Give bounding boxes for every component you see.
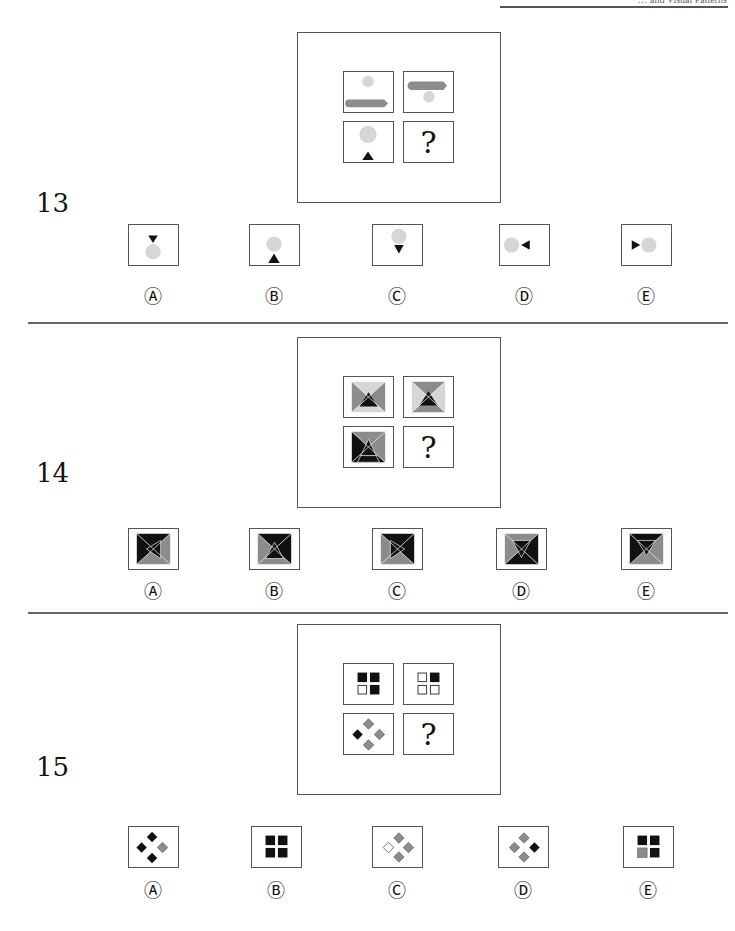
q13-cell-2 (403, 71, 454, 113)
question-13-number: 13 (36, 188, 69, 218)
four-squares-icon (404, 664, 453, 704)
running-header: … and Visual Patterns (638, 0, 727, 5)
question-mark: ? (404, 122, 453, 162)
q15-option-a[interactable] (128, 826, 179, 868)
quadrant-pyramid-icon (344, 377, 393, 417)
q15-option-c-label[interactable]: Ⓒ (385, 876, 409, 902)
four-diamonds-icon (129, 827, 178, 867)
header-rule (500, 6, 728, 8)
section-divider (28, 612, 728, 614)
q15-cell-2 (403, 663, 454, 705)
four-squares-icon (344, 664, 393, 704)
quadrant-pyramid-icon (344, 427, 393, 467)
q14-option-d-label[interactable]: Ⓓ (509, 577, 533, 603)
q14-option-a[interactable] (128, 528, 179, 570)
four-diamonds-icon (373, 827, 422, 867)
q14-cell-2 (403, 376, 454, 418)
q15-cell-question: ? (403, 713, 454, 755)
circle-and-arrow-bar-icon (344, 72, 393, 112)
right-triangle-pyramid-icon (373, 529, 422, 569)
q13-option-e[interactable] (621, 224, 672, 266)
section-divider (28, 322, 728, 324)
down-triangle-pyramid-icon (622, 529, 671, 569)
four-squares-icon (252, 827, 301, 867)
q13-option-c[interactable] (372, 224, 423, 266)
circle-over-down-triangle-icon (373, 225, 422, 265)
question-15-matrix-frame: ? (297, 624, 501, 795)
down-triangle-over-circle-icon (129, 225, 178, 265)
circle-over-up-triangle-icon (250, 225, 299, 265)
q15-option-d[interactable] (498, 826, 549, 868)
q15-option-a-label[interactable]: Ⓐ (141, 876, 165, 902)
question-mark: ? (404, 427, 453, 467)
four-squares-icon (624, 827, 673, 867)
four-diamonds-icon (499, 827, 548, 867)
q15-option-e[interactable] (623, 826, 674, 868)
question-mark: ? (404, 714, 453, 754)
circle-and-triangle-icon (344, 122, 393, 162)
q15-cell-1 (343, 663, 394, 705)
q15-option-c[interactable] (372, 826, 423, 868)
q13-cell-question: ? (403, 121, 454, 163)
four-diamonds-icon (344, 714, 393, 754)
q15-option-d-label[interactable]: Ⓓ (511, 876, 535, 902)
q14-option-b-label[interactable]: Ⓑ (262, 577, 286, 603)
q14-option-d[interactable] (496, 528, 547, 570)
q14-option-a-label[interactable]: Ⓐ (141, 577, 165, 603)
q13-option-b-label[interactable]: Ⓑ (262, 282, 286, 308)
q14-cell-3 (343, 426, 394, 468)
q13-option-e-label[interactable]: Ⓔ (634, 282, 658, 308)
q14-cell-question: ? (403, 426, 454, 468)
circle-left-triangle-icon (500, 225, 549, 265)
right-triangle-circle-icon (622, 225, 671, 265)
up-triangle-pyramid-icon (250, 529, 299, 569)
question-14-matrix-frame: ? (297, 337, 501, 508)
q14-option-e[interactable] (621, 528, 672, 570)
q13-option-a[interactable] (128, 224, 179, 266)
quadrant-pyramid-icon (404, 377, 453, 417)
q13-option-c-label[interactable]: Ⓒ (385, 282, 409, 308)
left-triangle-pyramid-icon (129, 529, 178, 569)
q15-option-b-label[interactable]: Ⓑ (264, 876, 288, 902)
down-triangle-pyramid-icon (497, 529, 546, 569)
q13-option-a-label[interactable]: Ⓐ (141, 282, 165, 308)
q14-option-b[interactable] (249, 528, 300, 570)
q14-option-c[interactable] (372, 528, 423, 570)
question-14-number: 14 (36, 458, 69, 488)
q13-cell-1 (343, 71, 394, 113)
q15-option-e-label[interactable]: Ⓔ (636, 876, 660, 902)
q13-cell-3 (343, 121, 394, 163)
arrow-bar-and-circle-icon (404, 72, 453, 112)
q15-cell-3 (343, 713, 394, 755)
q14-option-c-label[interactable]: Ⓒ (385, 577, 409, 603)
question-13-matrix-frame: ? (297, 32, 501, 203)
q13-option-d-label[interactable]: Ⓓ (512, 282, 536, 308)
q13-option-d[interactable] (499, 224, 550, 266)
q14-option-e-label[interactable]: Ⓔ (634, 577, 658, 603)
q13-option-b[interactable] (249, 224, 300, 266)
question-15-number: 15 (36, 752, 69, 782)
q14-cell-1 (343, 376, 394, 418)
q15-option-b[interactable] (251, 826, 302, 868)
